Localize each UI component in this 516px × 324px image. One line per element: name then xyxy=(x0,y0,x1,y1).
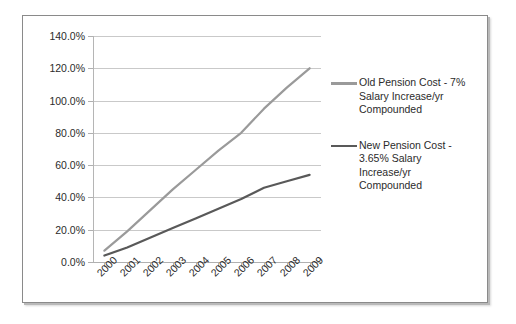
chart-legend: Old Pension Cost - 7%Salary Increase/yrC… xyxy=(331,76,481,215)
series-line xyxy=(104,68,309,250)
y-tick-label: 40.0% xyxy=(55,192,85,203)
y-tick-label: 100.0% xyxy=(49,95,85,106)
y-tick-label: 60.0% xyxy=(55,160,85,171)
plot-area: 0.0%20.0%40.0%60.0%80.0%100.0%120.0%140.… xyxy=(93,36,321,262)
legend-label: Old Pension Cost - 7%Salary Increase/yrC… xyxy=(359,76,465,117)
y-tick-label: 20.0% xyxy=(55,224,85,235)
legend-line-swatch xyxy=(331,145,357,148)
legend-entry[interactable]: New Pension Cost -3.65% SalaryIncrease/y… xyxy=(331,139,481,193)
y-tick-label: 0.0% xyxy=(61,257,85,268)
series-lines xyxy=(93,36,321,262)
y-tick-label: 120.0% xyxy=(49,63,85,74)
chart-frame: 0.0%20.0%40.0%60.0%80.0%100.0%120.0%140.… xyxy=(22,15,488,303)
legend-line-swatch xyxy=(331,82,357,85)
legend-entry[interactable]: Old Pension Cost - 7%Salary Increase/yrC… xyxy=(331,76,481,117)
y-tick-label: 140.0% xyxy=(49,31,85,42)
legend-label: New Pension Cost -3.65% SalaryIncrease/y… xyxy=(359,139,452,193)
y-tick-mark xyxy=(88,262,93,263)
series-line xyxy=(104,175,309,256)
y-tick-label: 80.0% xyxy=(55,128,85,139)
